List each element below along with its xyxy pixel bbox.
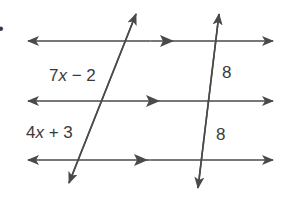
label-7x-minus-2: 7x − 2 (49, 67, 96, 84)
diagram-canvas (0, 0, 292, 208)
parallel-line-1 (28, 35, 273, 47)
label-8-bottom: 8 (216, 126, 225, 143)
parallel-line-3 (28, 154, 273, 166)
label-4x-plus-3: 4x + 3 (26, 124, 73, 141)
parallel-line-2 (28, 95, 273, 107)
label-8-top: 8 (222, 64, 231, 81)
geometry-figure: • 7x − 2 4x + 3 8 8 (0, 0, 292, 208)
